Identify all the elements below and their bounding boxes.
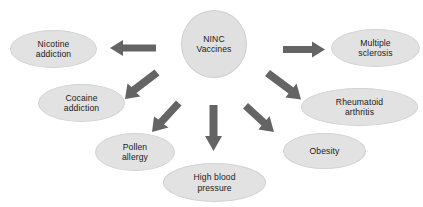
node-label-rheumatoid-arthritis: Rheumatoid arthritis	[336, 97, 383, 118]
node-label-multiple-sclerosis: Multiple sclerosis	[358, 38, 392, 59]
node-nicotine-addiction[interactable]: Nicotine addiction	[10, 30, 97, 68]
node-cocaine-addiction[interactable]: Cocaine addiction	[38, 84, 125, 122]
node-rheumatoid-arthritis[interactable]: Rheumatoid arthritis	[301, 88, 418, 126]
node-ninc-vaccines[interactable]: NINC Vaccines	[181, 10, 247, 78]
arrow-to-obesity	[243, 103, 274, 132]
node-label-high-blood-pressure: High blood pressure	[193, 172, 235, 193]
arrow-to-high-blood-pressure	[205, 105, 222, 151]
node-label-cocaine-addiction: Cocaine addiction	[64, 93, 99, 114]
node-label-pollen-allergy: Pollen allergy	[122, 142, 148, 163]
node-label-nicotine-addiction: Nicotine addiction	[36, 39, 71, 60]
diagram-canvas: NINC Vaccines Nicotine addiction Cocaine…	[0, 0, 423, 207]
arrow-to-pollen-allergy	[152, 101, 182, 133]
node-multiple-sclerosis[interactable]: Multiple sclerosis	[331, 29, 420, 67]
arrow-to-multiple-sclerosis	[283, 42, 325, 58]
node-pollen-allergy[interactable]: Pollen allergy	[95, 133, 175, 171]
arrow-to-nicotine-addiction	[110, 40, 156, 56]
arrow-to-rheumatoid-arthritis	[265, 70, 301, 100]
node-high-blood-pressure[interactable]: High blood pressure	[163, 163, 266, 202]
node-label-ninc-vaccines: NINC Vaccines	[196, 34, 231, 55]
node-label-obesity: Obesity	[310, 146, 340, 156]
arrow-to-cocaine-addiction	[125, 70, 160, 100]
node-obesity[interactable]: Obesity	[283, 133, 366, 169]
